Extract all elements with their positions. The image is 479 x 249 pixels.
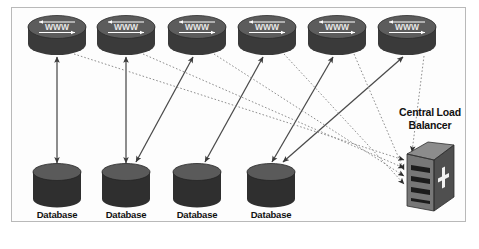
www-server-icon: WWW [26, 14, 88, 58]
web-server-node[interactable]: WWW [166, 14, 228, 62]
www-label: WWW [255, 22, 280, 32]
database-node[interactable] [100, 163, 152, 213]
database-node[interactable] [245, 163, 297, 213]
database-node[interactable] [31, 163, 83, 213]
load-balancer-label-line2: Balancer [392, 120, 468, 132]
load-balancer-node[interactable] [404, 140, 458, 216]
www-server-icon: WWW [236, 14, 298, 58]
database-icon [31, 163, 83, 209]
dotted-www4-lb [284, 54, 404, 184]
www-server-icon: WWW [166, 14, 228, 58]
www-server-icon: WWW [95, 14, 157, 58]
www-server-icon: WWW [376, 14, 438, 58]
database-label: Database [96, 210, 156, 221]
web-server-node[interactable]: WWW [306, 14, 368, 62]
database-icon [171, 163, 223, 209]
database-label: Database [241, 210, 301, 221]
load-balancer-label-line1: Central Load [392, 107, 468, 119]
link-www3-db2 [136, 57, 193, 162]
web-server-node[interactable]: WWW [376, 14, 438, 62]
server-tower-icon [404, 140, 458, 212]
web-server-node[interactable]: WWW [26, 14, 88, 62]
database-icon [100, 163, 152, 209]
link-www4-db3 [205, 57, 263, 162]
web-server-node[interactable]: WWW [236, 14, 298, 62]
dotted-www6-lb [412, 56, 424, 152]
www-label: WWW [395, 22, 420, 32]
www-label: WWW [325, 22, 350, 32]
www-label: WWW [185, 22, 210, 32]
www-server-icon: WWW [306, 14, 368, 58]
dotted-www2-lb [143, 54, 404, 168]
dotted-www3-lb [214, 54, 404, 176]
database-label: Database [167, 210, 227, 221]
database-label: Database [27, 210, 87, 221]
database-icon [245, 163, 297, 209]
www-label: WWW [45, 22, 70, 32]
database-node[interactable] [171, 163, 223, 213]
diagram-canvas: WWW WWW WWW [0, 0, 479, 249]
link-www5-db4 [272, 57, 333, 162]
solid-link-group [57, 57, 403, 163]
web-server-node[interactable]: WWW [95, 14, 157, 62]
www-label: WWW [114, 22, 139, 32]
